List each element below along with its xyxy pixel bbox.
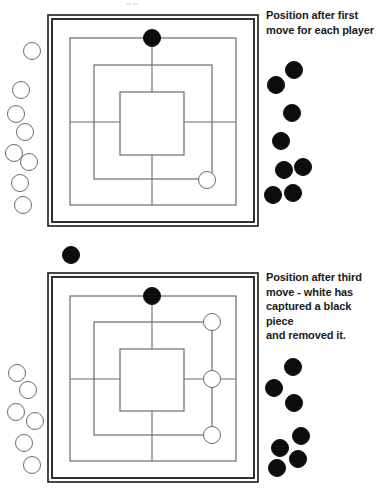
black-reserve-piece: [294, 158, 312, 176]
black-piece-on-board: [143, 29, 161, 47]
white-reserve-piece: [12, 81, 30, 99]
white-reserve-piece: [19, 381, 37, 399]
black-reserve-piece: [275, 161, 293, 179]
black-reserve-piece: [268, 459, 286, 477]
white-piece-on-board: [203, 370, 221, 388]
black-reserve-piece: [283, 104, 301, 122]
caption-third-move: Position after third move - white has ca…: [266, 270, 380, 343]
black-reserve-piece: [292, 427, 310, 445]
white-piece-on-board: [203, 313, 221, 331]
white-reserve-piece: [20, 153, 38, 171]
captured-black-piece: [62, 246, 80, 264]
black-reserve-piece: [284, 184, 302, 202]
white-reserve-piece: [7, 403, 25, 421]
cropped-title-sliver: g p: [126, 0, 186, 5]
caption-first-move: Position after first move for each playe…: [266, 8, 378, 37]
black-reserve-piece: [265, 379, 283, 397]
black-reserve-piece: [285, 61, 303, 79]
black-reserve-piece: [289, 450, 307, 468]
black-piece-on-board: [143, 287, 161, 305]
white-reserve-piece: [16, 123, 34, 141]
white-reserve-piece: [8, 364, 26, 382]
white-reserve-piece: [15, 434, 33, 452]
black-reserve-piece: [267, 76, 285, 94]
figure-canvas: g p Position after first move for each p…: [0, 0, 380, 494]
white-reserve-piece: [26, 412, 44, 430]
black-reserve-piece: [284, 358, 302, 376]
white-reserve-piece: [7, 105, 25, 123]
white-piece-on-board: [198, 171, 216, 189]
white-reserve-piece: [23, 42, 41, 60]
black-reserve-piece: [271, 439, 289, 457]
white-reserve-piece: [14, 196, 32, 214]
white-reserve-piece: [11, 174, 29, 192]
white-piece-on-board: [203, 426, 221, 444]
black-reserve-piece: [285, 394, 303, 412]
black-reserve-piece: [272, 132, 290, 150]
white-reserve-piece: [23, 456, 41, 474]
black-reserve-piece: [264, 186, 282, 204]
